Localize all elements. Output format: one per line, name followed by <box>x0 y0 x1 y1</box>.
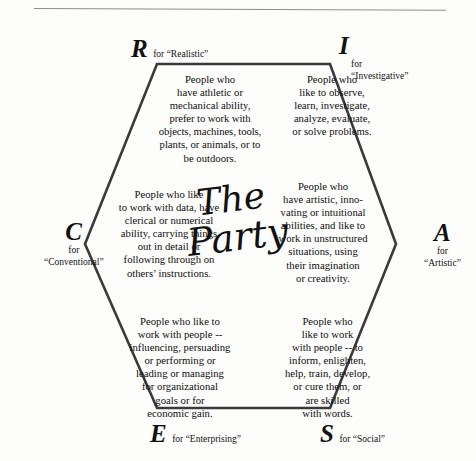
corner-letter-A: A <box>434 220 451 245</box>
corner-letter-R: R <box>131 36 148 61</box>
blurb-investigative: People wholike to observe,learn, investi… <box>272 73 392 138</box>
blurb-line: have athletic or <box>140 86 280 99</box>
blurb-line: be outdoors. <box>140 152 280 165</box>
blurb-line: analyze, evaluate, <box>272 112 392 125</box>
blurb-line: plants, or animals, or to <box>140 138 280 151</box>
blurb-realistic: People whohave athletic ormechanical abi… <box>140 73 280 165</box>
blurb-line: work with people -- <box>110 328 250 341</box>
corner-caption-social: for “Social” <box>339 434 385 445</box>
corner-label-conventional: C for “Conventional” <box>44 219 104 267</box>
blurb-line: People who <box>272 73 392 86</box>
corner-label-artistic: A for “Artistic” <box>424 220 461 268</box>
blurb-line: influencing, persuading <box>110 341 250 354</box>
blurb-line: learn, investigate, <box>272 99 392 112</box>
blurb-line: for organizational <box>110 380 250 393</box>
blurb-line: with words. <box>265 407 390 420</box>
blurb-enterprising: People who like towork with people --inf… <box>110 315 250 420</box>
corner-caption-conventional: “Conventional” <box>44 257 104 268</box>
corner-label-enterprising: E for “Enterprising” <box>150 421 241 446</box>
corner-caption-investigative-for: for <box>351 59 409 70</box>
blurb-line: mechanical ability, <box>140 99 280 112</box>
blurb-line: leading or managing <box>110 367 250 380</box>
blurb-line: or solve problems. <box>272 125 392 138</box>
blurb-line: goals or for <box>110 394 250 407</box>
corner-caption-enterprising: for “Enterprising” <box>172 434 241 445</box>
corner-letter-C: C <box>65 219 82 244</box>
blurb-line: like to work <box>265 328 390 341</box>
corner-letter-S: S <box>320 421 334 446</box>
corner-caption-artistic-for: for <box>437 246 448 257</box>
blurb-line: inform, enlighten, <box>265 354 390 367</box>
corner-caption-realistic: for “Realistic” <box>153 49 208 60</box>
blurb-line: like to observe, <box>272 86 392 99</box>
page-canvas: R for “Realistic” I for “Investigative” … <box>0 0 476 461</box>
blurb-line: or performing or <box>110 354 250 367</box>
blurb-line: are skilled <box>265 394 390 407</box>
corner-label-realistic: R for “Realistic” <box>131 36 208 61</box>
party-title: The Party <box>180 169 310 287</box>
top-horizontal-rule <box>34 8 446 11</box>
blurb-line: People who <box>140 73 280 86</box>
blurb-line: objects, machines, tools, <box>140 125 280 138</box>
corner-letter-I: I <box>339 33 409 58</box>
blurb-line: People who like to <box>110 315 250 328</box>
blurb-line: help, train, develop, <box>265 367 390 380</box>
corner-label-social: S for “Social” <box>320 421 385 446</box>
blurb-line: prefer to work with <box>140 112 280 125</box>
corner-caption-artistic: “Artistic” <box>424 258 461 269</box>
blurb-line: with people -- to <box>265 341 390 354</box>
corner-letter-E: E <box>150 421 167 446</box>
corner-caption-conventional-for: for <box>68 245 79 256</box>
blurb-line: or cure them, or <box>265 380 390 393</box>
blurb-social: People wholike to workwith people -- toi… <box>265 315 390 420</box>
blurb-line: economic gain. <box>110 407 250 420</box>
blurb-line: People who <box>265 315 390 328</box>
